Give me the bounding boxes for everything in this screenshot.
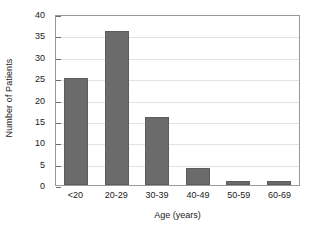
y-axis-tick-label: 5: [40, 160, 45, 169]
y-axis-tick-label: 40: [35, 11, 45, 20]
bar-series: [56, 16, 299, 185]
bar: [226, 181, 250, 185]
y-axis-tick-label: 20: [35, 96, 45, 105]
bar: [267, 181, 291, 185]
y-axis-tick-label: 10: [35, 139, 45, 148]
y-axis-tick-labels: 0510152025303540: [18, 0, 50, 196]
bar-chart: Number of Patients 0510152025303540 <202…: [0, 0, 311, 238]
x-axis-tick-label: 20-29: [96, 189, 137, 205]
y-axis-tick-label: 25: [35, 75, 45, 84]
x-axis-tick-labels: <2020-2930-3940-4950-5960-69: [55, 189, 300, 205]
bar-slot: [178, 16, 219, 185]
y-axis-tick-mark: [56, 187, 61, 188]
bar-slot: [259, 16, 300, 185]
y-axis-tick-label: 30: [35, 53, 45, 62]
bar: [145, 117, 169, 185]
plot-area: [55, 15, 300, 186]
y-axis-tick-label: 35: [35, 32, 45, 41]
y-axis-title: Number of Patients: [0, 0, 18, 196]
x-axis-title: Age (years): [55, 210, 300, 220]
y-axis-tick-label: 0: [40, 182, 45, 191]
x-axis-tick-label: 30-39: [137, 189, 178, 205]
x-axis-tick-label: 50-59: [218, 189, 259, 205]
y-axis-title-label: Number of Patients: [4, 59, 14, 138]
bar-slot: [97, 16, 138, 185]
bar: [105, 31, 129, 185]
y-axis-tick-label: 15: [35, 117, 45, 126]
bar: [64, 78, 88, 185]
bar-slot: [218, 16, 259, 185]
x-axis-tick-label: <20: [55, 189, 96, 205]
bar: [186, 168, 210, 185]
x-axis-tick-label: 60-69: [259, 189, 300, 205]
bar-slot: [56, 16, 97, 185]
x-axis-tick-label: 40-49: [177, 189, 218, 205]
bar-slot: [137, 16, 178, 185]
